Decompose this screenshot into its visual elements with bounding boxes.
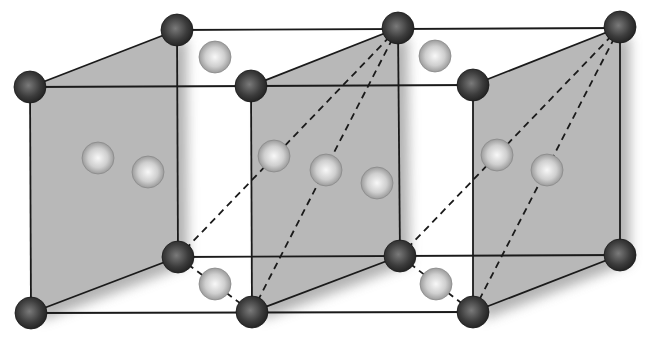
light-atom — [361, 167, 393, 199]
light-atom — [199, 268, 231, 300]
dark-atom — [457, 296, 489, 328]
dark-atom — [162, 241, 194, 273]
crystal-lattice-diagram — [0, 0, 653, 345]
cell-edge — [177, 30, 178, 257]
light-atom — [481, 139, 513, 171]
dark-atom — [236, 296, 268, 328]
light-atom — [132, 156, 164, 188]
light-atom — [258, 140, 290, 172]
dark-atom — [604, 239, 636, 271]
dark-atom — [382, 12, 414, 44]
cell-edge — [251, 86, 252, 312]
light-atom — [420, 268, 452, 300]
light-atom — [82, 142, 114, 174]
cell-edge — [30, 87, 31, 313]
light-atom — [531, 154, 563, 186]
light-atom — [310, 154, 342, 186]
dark-atom — [15, 297, 47, 329]
light-atom — [419, 40, 451, 72]
dark-atom — [384, 240, 416, 272]
dark-atom — [235, 70, 267, 102]
dark-atom — [14, 71, 46, 103]
dark-atom — [161, 14, 193, 46]
dark-atom — [604, 11, 636, 43]
dark-atom — [457, 69, 489, 101]
light-atom — [199, 41, 231, 73]
